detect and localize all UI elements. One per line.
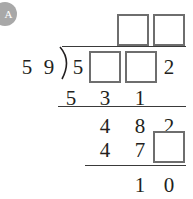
- subtraction-rule-second: [85, 165, 186, 166]
- division-vinculum: [62, 46, 186, 47]
- dividend-box-tens[interactable]: [125, 51, 157, 83]
- quotient-box-ones[interactable]: [153, 14, 185, 46]
- first-remainder-digit-2: 8: [130, 116, 150, 137]
- long-division-worksheet: A 5 9 5 2 5 3 1 4 8 2 4 7 1 0: [0, 0, 193, 199]
- second-partial-product-digit-2: 7: [130, 140, 150, 161]
- final-remainder-digit-1: 1: [130, 175, 150, 196]
- dividend-digit-ones: 2: [159, 57, 179, 78]
- subtraction-rule-first: [58, 106, 186, 107]
- divisor-digit-2: 9: [39, 57, 59, 78]
- final-remainder-digit-2: 0: [159, 175, 179, 196]
- dividend-digit-thousands: 5: [68, 57, 88, 78]
- divisor-digit-1: 5: [17, 57, 37, 78]
- first-remainder-digit-1: 4: [95, 116, 115, 137]
- second-partial-product-box-ones[interactable]: [153, 131, 185, 163]
- quotient-box-tens[interactable]: [117, 14, 149, 46]
- problem-label-badge: A: [0, 2, 17, 26]
- dividend-box-hundreds[interactable]: [89, 51, 121, 83]
- second-partial-product-digit-1: 4: [95, 140, 115, 161]
